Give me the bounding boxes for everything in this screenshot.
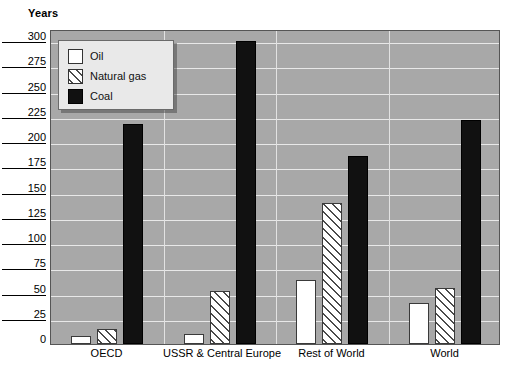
y-tick-label: 0 xyxy=(2,334,46,345)
bar-oil xyxy=(184,334,204,344)
y-tick-label: 200 xyxy=(2,132,46,144)
legend-swatch-natural-gas xyxy=(68,69,83,84)
legend-swatch-coal xyxy=(68,89,83,104)
bar-coal xyxy=(236,41,256,344)
legend-item: Natural gas xyxy=(68,68,146,84)
bar-coal xyxy=(461,120,481,344)
y-tick-label: 275 xyxy=(2,56,46,68)
gridline xyxy=(51,220,499,221)
legend-label: Coal xyxy=(90,90,113,102)
gridline xyxy=(51,270,499,271)
group-separator xyxy=(276,31,277,344)
y-tick-label: 125 xyxy=(2,208,46,220)
group-separator xyxy=(389,31,390,344)
y-tick-label: 225 xyxy=(2,107,46,119)
bar-natural-gas xyxy=(97,329,117,344)
gridline xyxy=(51,119,499,120)
bar-coal xyxy=(123,124,143,344)
bar-oil xyxy=(71,336,91,344)
legend-label: Natural gas xyxy=(90,70,146,82)
legend-item: Coal xyxy=(68,88,113,104)
y-tick-label: 150 xyxy=(2,183,46,195)
bar-natural-gas xyxy=(435,288,455,344)
x-tick-label: World xyxy=(388,347,501,359)
gridline xyxy=(51,296,499,297)
y-tick-label: 25 xyxy=(2,309,46,321)
x-axis-category-labels: OECDUSSR & Central EuropeRest of WorldWo… xyxy=(50,347,500,371)
gridline xyxy=(51,321,499,322)
gridline xyxy=(51,169,499,170)
legend-swatch-oil xyxy=(68,49,83,64)
y-tick-label: 75 xyxy=(2,258,46,270)
bar-oil xyxy=(409,303,429,344)
y-tick-label: 300 xyxy=(2,31,46,43)
legend-label: Oil xyxy=(90,50,103,62)
gridline xyxy=(51,195,499,196)
y-axis-tick-labels: 0255075100125150175200225250275300 xyxy=(0,30,46,345)
gridline xyxy=(51,144,499,145)
chart-legend: OilNatural gasCoal xyxy=(58,40,174,110)
bar-natural-gas xyxy=(210,291,230,344)
bar-oil xyxy=(296,280,316,344)
bar-coal xyxy=(348,156,368,344)
x-tick-label: Rest of World xyxy=(275,347,388,359)
x-tick-label: USSR & Central Europe xyxy=(163,347,276,359)
y-tick-label: 100 xyxy=(2,233,46,245)
y-tick-label: 175 xyxy=(2,157,46,169)
bar-natural-gas xyxy=(322,203,342,344)
x-tick-label: OECD xyxy=(50,347,163,359)
bar-chart: Years 0255075100125150175200225250275300… xyxy=(0,0,525,385)
y-tick-label: 50 xyxy=(2,284,46,296)
legend-item: Oil xyxy=(68,48,103,64)
gridline xyxy=(51,245,499,246)
y-axis-title: Years xyxy=(28,7,58,19)
y-tick-label: 250 xyxy=(2,82,46,94)
